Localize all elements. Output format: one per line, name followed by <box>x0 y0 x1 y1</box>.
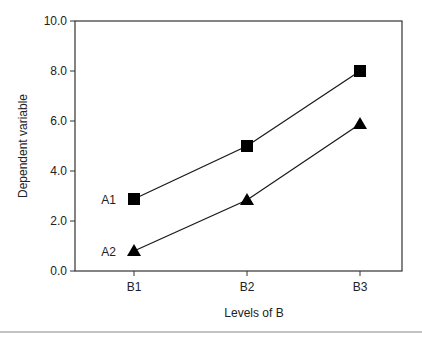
square-marker-icon <box>354 65 366 77</box>
y-tick-label: 0.0 <box>50 264 67 278</box>
y-axis-title: Dependent variable <box>16 94 30 198</box>
y-axis: 10.0 8.0 6.0 4.0 2.0 0.0 <box>44 14 75 278</box>
triangle-marker-icon <box>353 117 367 129</box>
triangle-marker-icon <box>240 193 254 205</box>
x-axis-title: Levels of B <box>224 306 283 320</box>
y-tick-label: 10.0 <box>44 14 68 28</box>
square-marker-icon <box>241 140 253 152</box>
y-tick-label: 6.0 <box>50 114 67 128</box>
plot-frame <box>75 21 402 271</box>
x-tick-label: B3 <box>353 280 368 294</box>
square-marker-icon <box>128 193 140 205</box>
x-axis: B1 B2 B3 <box>127 271 368 294</box>
triangle-marker-icon <box>127 244 141 256</box>
series-label-a1: A1 <box>101 193 116 207</box>
y-tick-label: 4.0 <box>50 164 67 178</box>
series-a1: A1 <box>101 65 366 207</box>
chart: 10.0 8.0 6.0 4.0 2.0 0.0 Dependent varia… <box>0 0 422 338</box>
y-tick-label: 8.0 <box>50 64 67 78</box>
series-label-a2: A2 <box>101 245 116 259</box>
y-tick-label: 2.0 <box>50 214 67 228</box>
x-tick-label: B1 <box>127 280 142 294</box>
x-tick-label: B2 <box>240 280 255 294</box>
series-a2: A2 <box>101 117 367 259</box>
